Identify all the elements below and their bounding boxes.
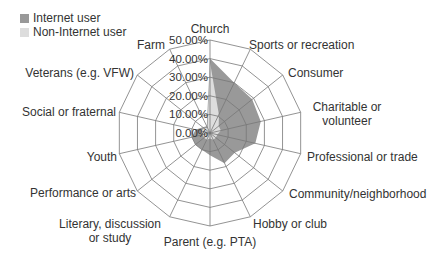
radial-tick-label: 20.00% [169,90,208,102]
category-label: Consumer [288,66,343,80]
category-label: Veterans (e.g. VFW) [25,66,134,80]
category-label: Hobby or club [253,217,327,231]
radial-tick-label: 10.00% [169,108,208,120]
radial-tick-label: 40.00% [169,53,208,65]
radar-chart: 0.00%10.00%20.00%30.00%40.00%50.00% Chur… [0,0,440,261]
radial-tick-label: 30.00% [169,71,208,83]
category-label: Literary, discussionor study [59,217,161,245]
category-label: Church [191,22,230,36]
radar-spokes [119,40,300,226]
category-label: Farm [137,38,165,52]
category-label: Community/neighborhood [289,187,426,201]
category-label: Charitable orvolunteer [313,100,382,128]
category-label: Performance or arts [30,186,136,200]
radial-tick-label: 0.00% [175,127,208,139]
category-label: Professional or trade [307,150,418,164]
category-label: Sports or recreation [249,38,354,52]
category-label: Parent (e.g. PTA) [164,235,256,249]
category-label: Youth [87,150,117,164]
category-label: Social or fraternal [22,105,116,119]
